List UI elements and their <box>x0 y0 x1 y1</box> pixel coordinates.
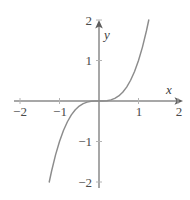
x-tick-label-1: 1 <box>127 105 151 118</box>
y-tick-label-2: 2 <box>72 14 92 27</box>
x-axis-name-label: x <box>166 83 172 96</box>
y-tick-label--2: −2 <box>69 176 92 189</box>
graph-figure: 2 1 −1 −2 −2 −1 1 2 y x <box>0 0 190 200</box>
y-tick-label-1: 1 <box>72 54 92 67</box>
x-tick-label--2: −2 <box>8 105 32 118</box>
x-tick-label-2: 2 <box>167 105 190 118</box>
coordinate-plane <box>0 0 190 200</box>
y-axis-name-label: y <box>104 28 110 41</box>
y-tick-label--1: −1 <box>69 135 92 148</box>
x-tick-label--1: −1 <box>48 105 72 118</box>
